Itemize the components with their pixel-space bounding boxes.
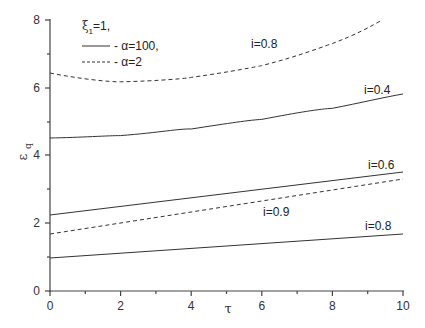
series-i08-alpha100 xyxy=(50,234,403,258)
y-axis-label: ε q xyxy=(15,143,33,160)
y-tick-labels: 0 2 4 6 8 xyxy=(33,13,40,298)
y-tick-label: 2 xyxy=(33,216,40,230)
annotation: i=0.8 xyxy=(251,37,278,51)
y-axis-label-main: ε xyxy=(15,153,30,160)
annotation: i=0.9 xyxy=(263,205,290,219)
annotation: i=0.6 xyxy=(368,158,395,172)
series-i06-alpha100 xyxy=(50,172,403,215)
annotation: i=0.4 xyxy=(364,83,391,97)
legend-header: ξ1=1, xyxy=(82,19,110,36)
series-i04-alpha100 xyxy=(50,94,403,138)
x-axis-label: τ xyxy=(224,301,231,316)
y-tick-label: 8 xyxy=(33,13,40,27)
y-tick-label: 0 xyxy=(33,284,40,298)
annotations: i=0.8 i=0.4 i=0.6 i=0.9 i=0.8 xyxy=(251,37,395,233)
x-tick-label: 6 xyxy=(258,299,265,313)
x-tick-label: 8 xyxy=(329,299,336,313)
annotation: i=0.8 xyxy=(365,219,392,233)
y-axis-label-sub: q xyxy=(23,143,33,149)
x-tick-label: 4 xyxy=(188,299,195,313)
legend-solid-label: - α=100, xyxy=(114,39,159,53)
y-tick-label: 4 xyxy=(33,148,40,162)
series-i09-alpha2 xyxy=(50,179,403,234)
y-tick-label: 6 xyxy=(33,81,40,95)
legend-dashed-label: - α=2 xyxy=(114,55,142,69)
x-tick-label: 10 xyxy=(396,299,410,313)
x-tick-label: 2 xyxy=(117,299,124,313)
x-tick-label: 0 xyxy=(47,299,54,313)
chart: 0 2 4 6 8 0 2 4 6 8 10 τ ε q ξ1=1, - α=1… xyxy=(0,0,425,328)
legend: ξ1=1, - α=100, - α=2 xyxy=(82,19,159,69)
series xyxy=(50,20,403,258)
